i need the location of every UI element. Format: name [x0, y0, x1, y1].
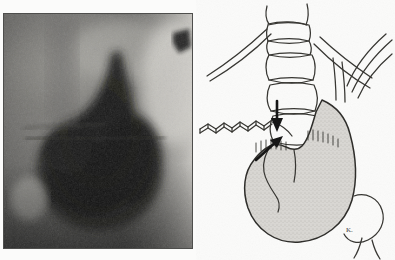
medical-figure: K.: [0, 0, 395, 260]
line-drawing-panel: K.: [196, 0, 395, 260]
radiograph-image: [3, 13, 193, 249]
anatomical-line-drawing: K.: [196, 0, 395, 260]
radiograph-panel: [3, 13, 193, 249]
